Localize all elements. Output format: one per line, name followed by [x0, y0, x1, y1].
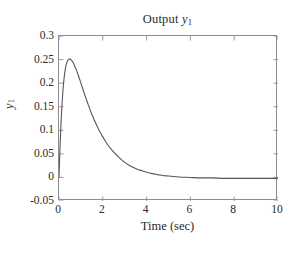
y-axis-label: y1 — [2, 99, 17, 109]
x-axis-tick-label: 2 — [99, 203, 105, 215]
y-axis-label-variable: y — [2, 103, 16, 109]
data-plot-svg — [59, 36, 278, 201]
series-line-y1 — [59, 59, 278, 178]
x-axis-tick-label: 10 — [271, 203, 283, 215]
figure-canvas: Output y1 -0.0500.050.10.150.20.250.3 02… — [0, 0, 294, 253]
y-axis-label-subscript: 1 — [6, 99, 16, 103]
x-axis-label: Time (sec) — [58, 219, 277, 234]
plot-area — [58, 35, 277, 200]
x-axis-tick-label: 6 — [187, 203, 193, 215]
x-axis-tick-label: 4 — [143, 203, 149, 215]
x-axis-tick-label: 8 — [230, 203, 236, 215]
x-axis-tick-label: 0 — [55, 203, 61, 215]
